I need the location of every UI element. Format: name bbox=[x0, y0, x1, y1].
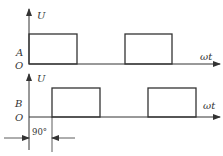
top-plot: U A O ωt bbox=[15, 9, 220, 71]
top-pulse-1 bbox=[29, 34, 77, 64]
top-pulse-2 bbox=[125, 34, 172, 64]
top-signal-label: A bbox=[15, 47, 23, 58]
phase-shift-label: 90° bbox=[32, 127, 47, 137]
bottom-origin-label: O bbox=[15, 112, 23, 123]
top-origin-label: O bbox=[15, 60, 23, 71]
bottom-x-axis-label: ωt bbox=[203, 100, 216, 111]
top-x-axis-label: ωt bbox=[200, 51, 213, 62]
bottom-signal-label: B bbox=[14, 98, 22, 109]
bottom-pulse-1 bbox=[52, 88, 100, 117]
bottom-y-axis-label: U bbox=[37, 73, 46, 84]
square-wave-phase-diagram: U A O ωt U B O ωt 90° bbox=[0, 0, 223, 156]
bottom-plot: U B O ωt bbox=[14, 73, 220, 150]
bottom-pulse-2 bbox=[148, 88, 196, 117]
top-y-axis-label: U bbox=[37, 10, 46, 21]
